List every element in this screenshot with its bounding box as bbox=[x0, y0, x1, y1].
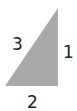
vertical-side-label: 1 bbox=[63, 44, 74, 61]
base-label: 2 bbox=[27, 94, 38, 111]
hypotenuse-label: 3 bbox=[12, 36, 23, 53]
